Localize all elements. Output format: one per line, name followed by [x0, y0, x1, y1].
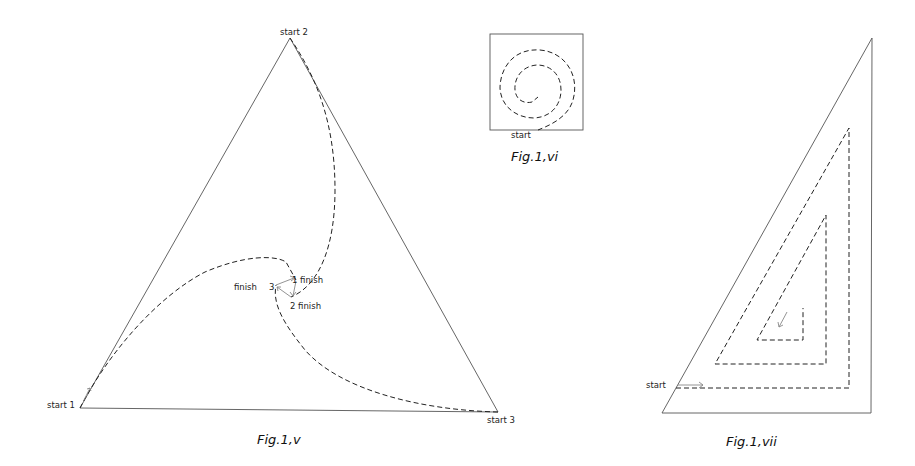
triangular-spiral-path [676, 128, 849, 388]
label-finish-2: 2 finish [290, 301, 321, 311]
finish-arrows [84, 276, 296, 400]
figure-canvas: start 2 start 1 start 3 1 finish 2 finis… [0, 0, 915, 466]
fig-1-vii: start Fig.1,vii [646, 38, 872, 449]
label-start: start [511, 130, 531, 140]
caption-fig-1-vii: Fig.1,vii [726, 434, 777, 449]
caption-fig-1-v: Fig.1,v [257, 432, 301, 447]
right-triangle [662, 38, 872, 413]
fig-1-v: start 2 start 1 start 3 1 finish 2 finis… [47, 27, 515, 447]
label-start-3: start 3 [487, 415, 515, 425]
end-arrow [778, 312, 787, 327]
label-finish-3-number: 3 [269, 282, 274, 292]
caption-fig-1-vi: Fig.1,vi [511, 149, 559, 164]
path-start2 [290, 38, 335, 297]
spiral-path [500, 50, 575, 130]
label-start: start [646, 380, 666, 390]
outer-square [490, 34, 583, 130]
fig-1-vi: start Fig.1,vi [490, 34, 583, 164]
label-start-1: start 1 [47, 400, 75, 410]
path-start1 [80, 258, 296, 408]
label-start-2: start 2 [280, 27, 308, 37]
label-finish-1: 1 finish [292, 275, 323, 285]
label-finish-3: finish [234, 282, 257, 292]
outer-triangle [80, 38, 498, 412]
start-arrow [678, 382, 703, 388]
